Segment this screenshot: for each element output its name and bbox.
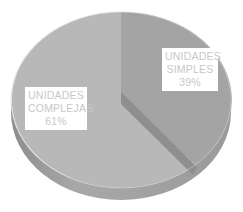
- data-label-unidades-simples: UNIDADES SIMPLES 39%: [162, 48, 218, 91]
- data-label-unidades-complejas: UNIDADES COMPLEJAS 61%: [25, 87, 87, 130]
- label-line: UNIDADES: [165, 50, 215, 63]
- label-percent: 39%: [165, 76, 215, 89]
- label-percent: 61%: [28, 115, 84, 128]
- label-line: SIMPLES: [165, 63, 215, 76]
- label-line: COMPLEJAS: [28, 102, 84, 115]
- label-line: UNIDADES: [28, 89, 84, 102]
